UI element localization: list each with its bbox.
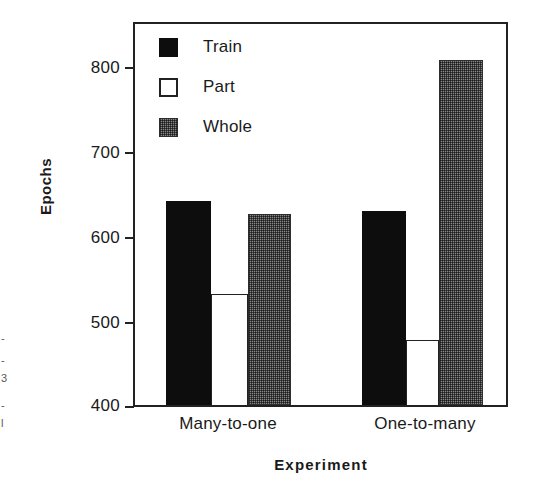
- bar-whole-many-to-one: [248, 214, 291, 405]
- legend-swatch-train-icon: [159, 38, 178, 57]
- legend-label-part: Part: [203, 77, 235, 97]
- scan-artifact: -: [1, 400, 5, 411]
- bar-chart-figure: - - 3 - l Epochs 800 700 600 500 400: [0, 0, 540, 494]
- y-tick-label-600: 600: [72, 228, 120, 248]
- bar-whole-one-to-many: [439, 60, 483, 405]
- y-tick-label-800: 800: [72, 58, 120, 78]
- y-tick-label-700-wrap: 700: [70, 143, 120, 163]
- y-tick-label-400-wrap: 400: [70, 396, 120, 416]
- bar-train-one-to-many: [362, 211, 406, 405]
- y-tick-label-800-wrap: 800: [70, 58, 120, 78]
- bar-part-many-to-one: [211, 294, 248, 405]
- x-group-label-one-to-many: One-to-many: [335, 414, 515, 434]
- scan-artifact: -: [1, 355, 5, 366]
- bar-part-one-to-many: [406, 340, 439, 405]
- y-tick-label-500-wrap: 500: [70, 313, 120, 333]
- y-tick-label-700: 700: [72, 143, 120, 163]
- plot-area: Train Part Whole: [133, 22, 508, 407]
- legend-swatch-part-icon: [159, 78, 178, 97]
- scan-artifact: 3: [1, 373, 7, 384]
- bar-train-many-to-one: [166, 201, 211, 405]
- y-tick-label-400: 400: [72, 396, 120, 416]
- x-group-label-many-to-one: Many-to-one: [138, 414, 318, 434]
- scan-artifact: -: [1, 333, 5, 344]
- legend-swatch-whole-icon: [159, 118, 178, 137]
- y-tick-label-600-wrap: 600: [70, 228, 120, 248]
- x-axis-title: Experiment: [133, 456, 509, 473]
- scan-artifact: l: [1, 418, 3, 429]
- y-axis-title: Epochs: [37, 141, 54, 233]
- legend-label-whole: Whole: [203, 117, 252, 137]
- y-tick-label-500: 500: [72, 313, 120, 333]
- legend-label-train: Train: [203, 37, 242, 57]
